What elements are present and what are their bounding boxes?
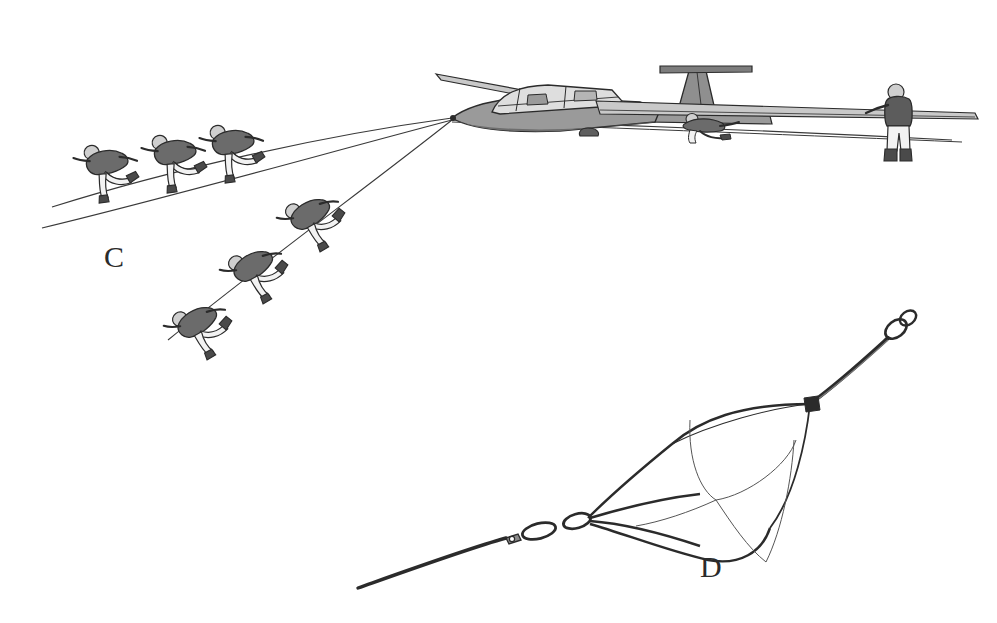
tow-hook	[450, 115, 456, 121]
canopy-skirt-lower	[590, 524, 770, 561]
wing-runner-boot-right	[900, 149, 912, 161]
figure-root: C D	[0, 0, 997, 623]
wing-runner-trousers	[887, 126, 910, 151]
chain-link-1	[521, 520, 558, 543]
pilot-front	[527, 94, 548, 105]
tow-cable-lower	[358, 538, 506, 588]
bridle-upper	[590, 494, 700, 518]
tow-ring-small	[897, 307, 919, 328]
drogue-assembly-group	[358, 307, 919, 588]
apex-riser	[810, 338, 888, 404]
pilot-rear	[574, 91, 597, 101]
runner-group-lower	[162, 181, 356, 370]
canopy-gore-2	[716, 440, 796, 500]
chain-link-2	[562, 510, 593, 531]
runner-lower-1	[275, 181, 356, 262]
illustration-canvas	[0, 0, 997, 623]
weak-link-pin	[509, 536, 514, 541]
runner-lower-2	[218, 233, 299, 314]
main-wheel	[579, 128, 598, 136]
canopy-gore-1	[690, 420, 716, 500]
wing-runner-boot-left	[884, 149, 897, 161]
canopy-panel-fold	[766, 440, 794, 562]
wing-runner	[866, 84, 912, 161]
runner-upper-3	[198, 116, 271, 188]
canopy-gore-right	[770, 404, 810, 528]
tailplane	[660, 66, 752, 73]
runner-group-upper	[72, 116, 271, 208]
runner-upper-1	[72, 136, 145, 208]
wing-runner-torso	[885, 96, 912, 126]
panel-label-d: D	[700, 552, 722, 582]
canopy-gore-3	[716, 500, 766, 562]
apex-knot	[804, 396, 820, 412]
canopy-skirt-upper	[588, 404, 810, 518]
runner-lower-3	[162, 289, 243, 370]
panel-label-c: C	[104, 242, 124, 272]
